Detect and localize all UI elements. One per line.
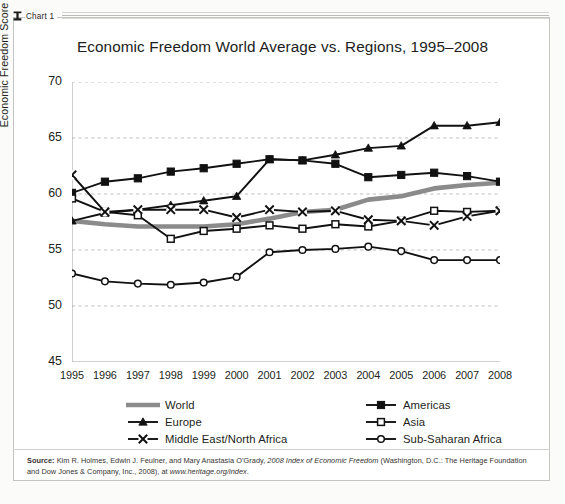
data-point-filled-square — [101, 178, 108, 185]
data-point-filled-square — [398, 171, 405, 178]
y-tick-label: 50 — [36, 298, 62, 312]
y-tick-label: 55 — [36, 242, 62, 256]
data-point-open-circle — [365, 243, 372, 250]
data-point-open-circle — [233, 274, 240, 281]
legend-label: Asia — [403, 416, 425, 428]
source-title-italic: 2008 Index of Economic Freedom — [267, 456, 378, 465]
legend-key-cross-x-icon — [125, 433, 161, 445]
legend-item-europe: Europe — [125, 416, 202, 428]
data-point-open-square — [332, 221, 339, 228]
source-text-a: Kim R. Holmes, Edwin J. Feulner, and Mar… — [55, 456, 268, 465]
data-point-cross-x — [495, 206, 500, 215]
data-point-cross-x — [166, 205, 175, 214]
data-point-open-square — [378, 419, 385, 426]
series-world — [72, 183, 500, 227]
legend-item-middle-east-north-africa: Middle East/North Africa — [125, 433, 287, 445]
legend-item-sub-saharan-africa: Sub-Saharan Africa — [363, 433, 502, 445]
series-layer — [72, 118, 500, 288]
data-point-filled-square — [463, 172, 470, 179]
data-point-cross-x — [100, 207, 109, 216]
data-point-open-square — [72, 195, 75, 202]
panel-divider — [13, 449, 550, 450]
data-point-open-circle — [332, 246, 339, 253]
chart-title: Economic Freedom World Average vs. Regio… — [0, 38, 565, 56]
x-tick-label: 2008 — [480, 369, 520, 381]
y-tick-label: 45 — [36, 354, 62, 368]
data-point-open-circle — [464, 257, 471, 264]
data-point-cross-x — [265, 205, 274, 214]
data-point-cross-x — [138, 434, 147, 443]
data-point-filled-square — [377, 401, 384, 408]
chart-tab-label: Chart 1 — [25, 12, 57, 21]
data-point-filled-square — [496, 178, 500, 185]
legend-key-thick-line-icon — [125, 399, 161, 411]
data-point-cross-x — [397, 216, 406, 225]
data-point-open-circle — [497, 257, 500, 264]
series-line — [72, 183, 500, 227]
source-note: Source: Kim R. Holmes, Edwin J. Feulner,… — [27, 456, 535, 477]
data-point-filled-square — [200, 165, 207, 172]
chart-figure: Chart 1 Economic Freedom World Average v… — [0, 0, 565, 504]
tab-rule-lines — [62, 12, 549, 21]
data-point-open-circle — [135, 280, 142, 287]
data-point-cross-x — [331, 206, 340, 215]
gridlines — [72, 82, 500, 306]
data-point-cross-x — [364, 215, 373, 224]
data-point-open-square — [200, 228, 207, 235]
legend-label: World — [165, 399, 195, 411]
data-point-filled-square — [233, 160, 240, 167]
legend-key-open-circle-icon — [363, 433, 399, 445]
data-point-open-square — [431, 207, 438, 214]
data-point-filled-square — [431, 169, 438, 176]
data-point-open-circle — [398, 248, 405, 255]
y-tick-label: 60 — [36, 186, 62, 200]
data-point-filled-square — [332, 160, 339, 167]
data-point-open-square — [233, 225, 240, 232]
legend-label: Middle East/North Africa — [165, 433, 287, 445]
data-point-open-square — [299, 225, 306, 232]
y-tick-label: 70 — [36, 74, 62, 88]
data-point-cross-x — [430, 221, 439, 230]
data-point-cross-x — [133, 205, 142, 214]
legend-key-filled-triangle-icon — [125, 416, 161, 428]
data-point-open-circle — [167, 281, 174, 288]
chart-legend: WorldAmericasEuropeAsiaMiddle East/North… — [125, 399, 505, 447]
legend-key-filled-square-icon — [363, 399, 399, 411]
data-point-open-circle — [299, 247, 306, 254]
data-point-cross-x — [298, 207, 307, 216]
data-point-cross-x — [462, 212, 471, 221]
plot-svg — [72, 82, 500, 362]
data-point-open-square — [266, 222, 273, 229]
chart-tab: Chart 1 — [13, 11, 57, 21]
legend-label: Americas — [403, 399, 450, 411]
data-point-cross-x — [232, 213, 241, 222]
series-asia — [72, 195, 500, 242]
plot-area — [72, 82, 500, 362]
source-text-c: . — [247, 467, 249, 476]
data-point-open-circle — [266, 249, 273, 256]
legend-key-open-square-icon — [363, 416, 399, 428]
data-point-open-square — [167, 235, 174, 242]
data-point-cross-x — [72, 170, 77, 179]
legend-item-asia: Asia — [363, 416, 425, 428]
data-point-filled-square — [365, 174, 372, 181]
chart-tab-icon — [13, 11, 22, 21]
data-point-open-circle — [72, 270, 75, 277]
source-url: www.heritage.org/index — [170, 467, 247, 476]
y-tick-label: 65 — [36, 130, 62, 144]
legend-item-americas: Americas — [363, 399, 450, 411]
data-point-cross-x — [199, 205, 208, 214]
source-label: Source: — [27, 456, 55, 465]
legend-label: Sub-Saharan Africa — [403, 433, 502, 445]
series-line — [72, 247, 500, 285]
legend-item-world: World — [125, 399, 195, 411]
data-point-open-circle — [200, 279, 207, 286]
data-point-filled-square — [167, 168, 174, 175]
data-point-open-circle — [378, 436, 385, 443]
data-point-open-circle — [102, 278, 109, 285]
y-axis-label: Economic Freedom Score — [0, 0, 10, 150]
legend-label: Europe — [165, 416, 202, 428]
data-point-filled-square — [134, 175, 141, 182]
data-point-open-circle — [431, 257, 438, 264]
